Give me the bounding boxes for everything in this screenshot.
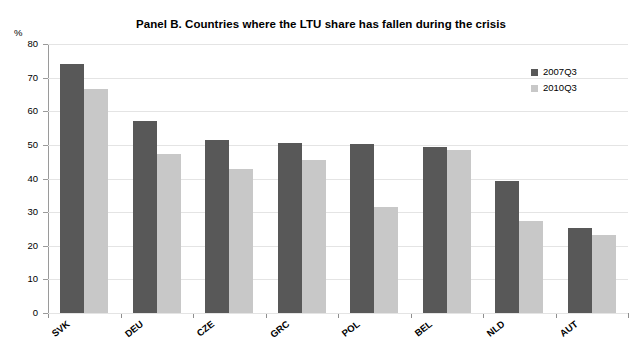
bar xyxy=(592,235,616,313)
x-tick-label: NLD xyxy=(485,319,507,339)
y-tick-label: 10 xyxy=(10,274,38,284)
x-tick-label: BEL xyxy=(413,319,434,339)
legend-label: 2010Q3 xyxy=(543,83,577,93)
bar xyxy=(229,169,253,313)
y-tick-label: 60 xyxy=(10,106,38,116)
y-tick-label: 70 xyxy=(10,73,38,83)
x-tick-label: AUT xyxy=(558,319,580,339)
bar xyxy=(447,150,471,313)
x-tick-label: POL xyxy=(340,319,362,339)
bar xyxy=(278,143,302,313)
legend-item-2010q3: 2010Q3 xyxy=(531,80,621,96)
y-tick-label: 50 xyxy=(10,140,38,150)
chart-title: Panel B. Countries where the LTU share h… xyxy=(0,18,642,30)
y-tick-label: 0 xyxy=(10,308,38,318)
bar xyxy=(519,221,543,313)
legend-label: 2007Q3 xyxy=(543,67,577,77)
bar xyxy=(568,228,592,313)
legend-swatch-icon xyxy=(531,85,538,92)
bar xyxy=(60,64,84,313)
legend-swatch-icon xyxy=(531,69,538,76)
legend-item-2007q3: 2007Q3 xyxy=(531,64,621,80)
bar xyxy=(205,140,229,314)
x-tick-label: SVK xyxy=(50,319,72,339)
x-tick-label: GRC xyxy=(268,319,291,340)
x-tick-label: CZE xyxy=(195,319,216,339)
bar xyxy=(495,181,519,313)
x-tick-label: DEU xyxy=(123,319,145,339)
grid-line xyxy=(48,44,628,45)
bar xyxy=(350,144,374,313)
bar xyxy=(423,147,447,313)
bar xyxy=(133,121,157,313)
grid-line xyxy=(48,313,628,314)
chart-figure: Panel B. Countries where the LTU share h… xyxy=(0,0,642,361)
bar xyxy=(157,154,181,313)
chart-legend: 2007Q3 2010Q3 xyxy=(531,64,621,96)
x-tick-mark xyxy=(628,313,629,318)
y-tick-label: 20 xyxy=(10,241,38,251)
grid-line xyxy=(48,111,628,112)
page-edge-artifact xyxy=(0,352,642,361)
y-tick-label: 30 xyxy=(10,207,38,217)
bar xyxy=(302,160,326,313)
y-tick-label: 40 xyxy=(10,174,38,184)
y-axis-unit-label: % xyxy=(14,28,22,38)
bar xyxy=(84,89,108,313)
bar xyxy=(374,207,398,313)
y-tick-label: 80 xyxy=(10,39,38,49)
